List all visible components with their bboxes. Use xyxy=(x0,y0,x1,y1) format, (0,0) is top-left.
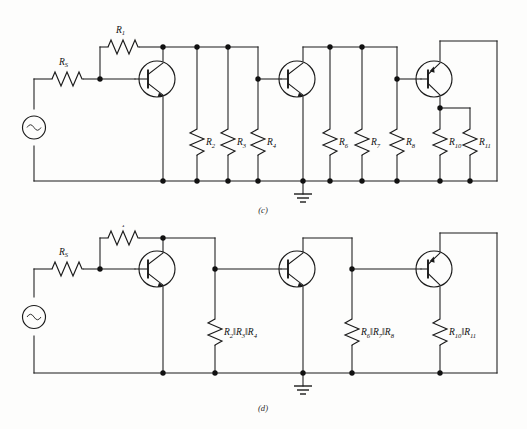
resistor-R4-c xyxy=(251,129,265,156)
resistor-R7-c-label: R7 xyxy=(370,137,381,148)
ac-source-c xyxy=(23,116,46,139)
resistor-R1-c-label: R1 xyxy=(115,25,125,36)
resistor-R6R7R8-parallel-d xyxy=(345,319,359,346)
transistor-Q3-c xyxy=(416,61,452,97)
transistor-Q1-d xyxy=(135,251,175,287)
panel-d-wires xyxy=(34,233,497,373)
transistor-Q1-c xyxy=(135,61,175,97)
resistor-R3-c-label: R3 xyxy=(236,137,247,148)
resistor-Rs-c-label: RS xyxy=(58,57,69,68)
resistor-R7-c xyxy=(355,129,369,156)
transistor-Q2-c xyxy=(279,61,315,97)
resistor-R2-c-label: R2 xyxy=(205,137,216,148)
panel-d-junction-dots xyxy=(97,235,442,375)
resistor-R4-c-label: R4 xyxy=(266,137,277,148)
resistor-R10-c-label: R10 xyxy=(448,137,462,148)
transistor-Q3-d xyxy=(416,251,452,287)
resistor-R6-c xyxy=(323,129,337,156)
resistor-R10-c xyxy=(433,129,447,156)
resistor-R10R11-parallel-d-label: R10‖R11 xyxy=(448,326,476,338)
resistor-R8-c xyxy=(390,129,404,156)
resistor-Rs-d xyxy=(52,262,84,276)
resistor-R2-c xyxy=(190,129,204,156)
resistor-Rs-d-label: RS xyxy=(58,247,69,258)
panel-d-caption: (d) xyxy=(258,403,268,413)
ground-symbol-d xyxy=(294,373,312,394)
ground-symbol-c xyxy=(294,181,312,202)
resistor-R1-d xyxy=(108,231,140,245)
resistor-R2R3R4-parallel-d-label: R2‖R3‖R4 xyxy=(223,326,258,338)
resistor-R10R11-parallel-d xyxy=(433,319,447,346)
panel-c-caption: (c) xyxy=(258,205,268,215)
panel-c-diagram: RS R1 xyxy=(0,0,527,225)
resistor-R1-c xyxy=(108,40,140,54)
ac-source-d xyxy=(23,306,46,329)
resistor-R11-c xyxy=(463,129,477,156)
figure-root: RS R1 xyxy=(0,0,527,429)
resistor-R1-d-label: R1 xyxy=(115,225,125,227)
resistor-R3-c xyxy=(221,129,235,156)
resistor-R8-c-label: R8 xyxy=(405,137,416,148)
resistor-R6-c-label: R6 xyxy=(338,137,349,148)
transistor-Q2-d xyxy=(279,251,315,287)
resistor-R11-c-label: R11 xyxy=(478,137,491,148)
resistor-R2R3R4-parallel-d xyxy=(208,319,222,346)
panel-d-diagram: RS R1 xyxy=(0,225,527,429)
resistor-R6R7R8-parallel-d-label: R6‖R7‖R8 xyxy=(360,326,395,338)
resistor-Rs-c xyxy=(52,72,84,86)
